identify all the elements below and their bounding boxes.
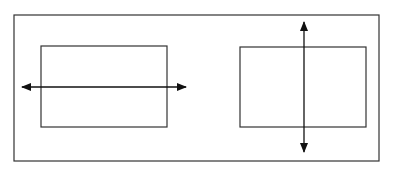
diagram-canvas <box>0 0 393 174</box>
left-panel <box>22 46 186 127</box>
right-panel <box>240 22 366 152</box>
right-rectangle <box>240 47 366 127</box>
outer-frame <box>14 15 379 161</box>
